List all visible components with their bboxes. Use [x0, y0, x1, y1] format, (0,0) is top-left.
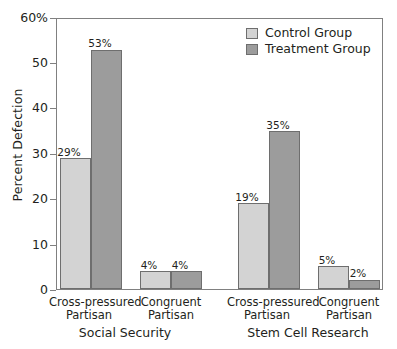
x-group-label-stem-cell-research: Stem Cell Research [238, 327, 378, 340]
y-tick-label-50: 50 [0, 57, 48, 70]
x-label-social-security-congruent-line2: Partisan [134, 309, 208, 322]
bar-value-stem-cell-cross-pressured-control: 19% [222, 192, 272, 203]
legend-swatch-treatment-icon [246, 44, 258, 55]
bar-value-stem-cell-congruent-treatment: 2% [333, 268, 383, 279]
bar-stem-cell-congruent-treatment[interactable] [349, 280, 380, 289]
plot-area: Control Group Treatment Group [56, 18, 383, 290]
bar-chart-figure: Percent Defection 60% 50 40 30 20 10 0 [0, 0, 397, 349]
y-tick-label-10: 10 [0, 239, 48, 252]
bar-social-security-congruent-treatment[interactable] [171, 271, 202, 289]
bar-social-security-cross-pressured-treatment[interactable] [91, 50, 122, 289]
bar-social-security-cross-pressured-control[interactable] [60, 158, 91, 289]
bar-social-security-congruent-control[interactable] [140, 271, 171, 289]
legend: Control Group Treatment Group [246, 26, 371, 58]
bar-stem-cell-cross-pressured-treatment[interactable] [269, 131, 300, 289]
x-group-label-social-security: Social Security [65, 327, 185, 340]
legend-label-control: Control Group [265, 27, 352, 40]
bar-value-social-security-congruent-treatment: 4% [155, 260, 205, 271]
bar-value-stem-cell-cross-pressured-treatment: 35% [253, 120, 303, 131]
y-tick-label-20: 20 [0, 193, 48, 206]
bar-value-social-security-cross-pressured-control: 29% [44, 147, 94, 158]
legend-item-treatment: Treatment Group [246, 42, 371, 57]
x-label-stem-cell-congruent-line2: Partisan [312, 309, 386, 322]
legend-item-control: Control Group [246, 26, 371, 41]
y-tick-label-60: 60% [0, 12, 48, 25]
x-label-stem-cell-cross-pressured-line2: Partisan [227, 309, 307, 322]
bar-value-stem-cell-congruent-control: 5% [302, 255, 352, 266]
y-tick-label-0: 0 [0, 284, 48, 297]
legend-swatch-control-icon [246, 28, 258, 39]
y-tick-label-40: 40 [0, 102, 48, 115]
x-label-social-security-cross-pressured-line2: Partisan [49, 309, 129, 322]
bar-value-social-security-cross-pressured-treatment: 53% [75, 38, 125, 49]
y-tick-label-30: 30 [0, 148, 48, 161]
y-tick-0 [50, 290, 56, 291]
legend-label-treatment: Treatment Group [265, 43, 371, 56]
bar-stem-cell-cross-pressured-control[interactable] [238, 203, 269, 289]
